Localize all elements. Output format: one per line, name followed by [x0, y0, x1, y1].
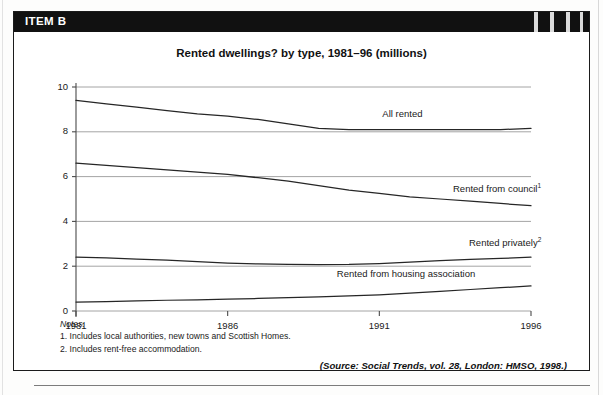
notes-heading: Notes:	[60, 318, 291, 330]
y-axis-tick-label: 10	[46, 81, 68, 92]
header-notch	[534, 12, 538, 32]
note-line-2: 2. Includes rent-free accommodation.	[60, 343, 291, 355]
x-axis-tick-label: 1991	[359, 320, 399, 331]
chart-plot-area: 02468101981198619911996All rentedRented …	[76, 75, 591, 325]
series-label-2: Rented from council1	[453, 182, 541, 194]
page-edge-right	[598, 0, 599, 395]
series-label-footnote: 2	[538, 236, 542, 243]
y-axis-tick-label: 8	[46, 125, 68, 136]
page-edge-left	[2, 0, 3, 395]
line-chart-svg	[76, 75, 591, 325]
series-label-4: Rented from housing association	[337, 268, 475, 279]
series-label-footnote: 1	[537, 182, 541, 189]
header-notch	[550, 12, 554, 32]
series-label-3: Rented privately2	[469, 236, 541, 248]
notes-block: Notes: 1. Includes local authorities, ne…	[60, 318, 291, 355]
series-line-1	[76, 100, 531, 129]
header-notch	[580, 12, 583, 32]
series-label-1: All rented	[382, 108, 422, 119]
y-axis-tick-label: 2	[46, 260, 68, 271]
item-box: ITEM B Rented dwellings? by type, 1981–9…	[13, 11, 590, 371]
item-header-bar: ITEM B	[14, 12, 589, 32]
scan-page: ITEM B Rented dwellings? by type, 1981–9…	[0, 0, 603, 395]
source-line: (Source: Social Trends, vol. 28, London:…	[320, 360, 567, 371]
series-line-3	[76, 257, 531, 264]
header-notch	[566, 12, 570, 32]
note-line-1: 1. Includes local authorities, new towns…	[60, 330, 291, 342]
x-axis-tick-label: 1996	[511, 320, 551, 331]
item-header-label: ITEM B	[25, 15, 66, 27]
y-axis-tick-label: 0	[46, 305, 68, 316]
series-line-4	[76, 286, 531, 302]
page-bottom-rule	[34, 385, 590, 386]
y-axis-tick-label: 4	[46, 215, 68, 226]
chart-title: Rented dwellings? by type, 1981–96 (mill…	[14, 47, 589, 59]
y-axis-tick-label: 6	[46, 170, 68, 181]
